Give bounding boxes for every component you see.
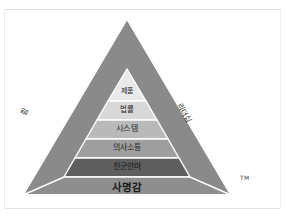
pyramid-tier-label-0: 제품 bbox=[121, 88, 133, 95]
trademark-mark: TM bbox=[240, 174, 249, 181]
pyramid-tier-label-4: 천군만마 bbox=[113, 163, 142, 171]
pyramid-graphic bbox=[0, 0, 285, 217]
pyramid-tier-label-1: 법률 bbox=[120, 106, 134, 114]
pyramid-tier-label-2: 시스템 bbox=[116, 125, 138, 133]
pyramid-tier-label-3: 의사소통 bbox=[113, 144, 142, 152]
diagram-canvas: 제품 법률 시스템 의사소통 천군만마 사명감 힘 리더십 TM bbox=[0, 0, 285, 217]
pyramid-tier-label-5: 사명감 bbox=[112, 182, 143, 193]
